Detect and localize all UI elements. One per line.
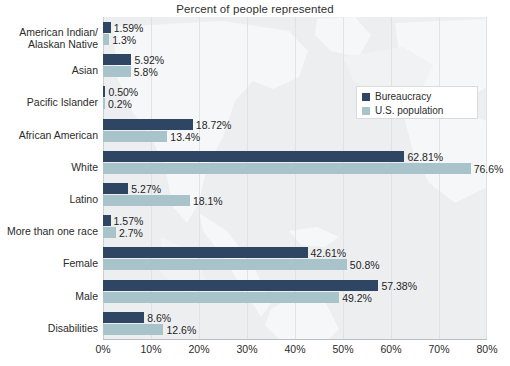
category-label: American Indian/ Alaskan Native bbox=[0, 26, 98, 50]
bar-value-label: 1.57% bbox=[114, 215, 144, 227]
bar-bureaucracy bbox=[103, 86, 105, 97]
bar-value-label: 76.6% bbox=[474, 163, 504, 175]
bar-value-label: 8.6% bbox=[147, 312, 171, 324]
bar-chart: Percent of people represented bbox=[0, 0, 510, 366]
bar-value-label: 57.38% bbox=[381, 280, 417, 292]
x-tick-label: 40% bbox=[275, 343, 315, 355]
bar-value-label: 18.1% bbox=[193, 195, 223, 207]
x-tick-label: 20% bbox=[179, 343, 219, 355]
x-tick-label: 50% bbox=[323, 343, 363, 355]
chart-legend: Bureaucracy U.S. population bbox=[356, 86, 478, 119]
plot-area: 1.59%1.3%5.92%5.8%0.50%0.2%18.72%13.4%62… bbox=[103, 17, 487, 339]
bar-value-label: 2.7% bbox=[119, 227, 143, 239]
category-label: White bbox=[0, 161, 98, 173]
bar-value-label: 5.92% bbox=[134, 54, 164, 66]
x-tick-label: 60% bbox=[371, 343, 411, 355]
bar-value-label: 5.27% bbox=[131, 183, 161, 195]
bar-value-label: 18.72% bbox=[196, 119, 232, 131]
legend-swatch-icon-bureaucracy bbox=[362, 93, 370, 101]
bar-bureaucracy bbox=[103, 119, 193, 130]
bar-us-population bbox=[103, 34, 109, 45]
bar-bureaucracy bbox=[103, 54, 131, 65]
category-label: Disabilities bbox=[0, 322, 98, 334]
chart-title: Percent of people represented bbox=[0, 3, 510, 15]
bar-value-label: 0.50% bbox=[108, 86, 138, 98]
x-tick-label: 30% bbox=[227, 343, 267, 355]
bar-value-label: 62.81% bbox=[407, 151, 443, 163]
x-axis-line bbox=[103, 339, 487, 340]
bar-value-label: 42.61% bbox=[311, 247, 347, 259]
category-label: Male bbox=[0, 290, 98, 302]
bar-value-label: 1.3% bbox=[112, 34, 136, 46]
bar-bureaucracy bbox=[103, 280, 378, 291]
x-tick-label: 70% bbox=[419, 343, 459, 355]
x-tick-label: 80% bbox=[467, 343, 507, 355]
x-tick-label: 10% bbox=[131, 343, 171, 355]
bar-value-label: 5.8% bbox=[134, 66, 158, 78]
x-tick-label: 0% bbox=[83, 343, 123, 355]
category-label: African American bbox=[0, 129, 98, 141]
bar-value-label: 49.2% bbox=[342, 292, 372, 304]
bar-bureaucracy bbox=[103, 312, 144, 323]
legend-label-us-population: U.S. population bbox=[375, 105, 443, 116]
category-label: Pacific Islander bbox=[0, 96, 98, 108]
bar-us-population bbox=[103, 324, 163, 335]
category-label: More than one race bbox=[0, 225, 98, 237]
bar-value-label: 12.6% bbox=[166, 324, 196, 336]
bar-value-label: 13.4% bbox=[170, 131, 200, 143]
bar-bureaucracy bbox=[103, 151, 404, 162]
bar-us-population bbox=[103, 131, 167, 142]
bar-us-population bbox=[103, 163, 471, 174]
bar-bureaucracy bbox=[103, 22, 111, 33]
bar-us-population bbox=[103, 98, 105, 109]
bar-bureaucracy bbox=[103, 247, 308, 258]
category-label: Latino bbox=[0, 193, 98, 205]
bar-value-label: 0.2% bbox=[108, 98, 132, 110]
bar-bureaucracy bbox=[103, 183, 128, 194]
bar-us-population bbox=[103, 259, 347, 270]
bar-bureaucracy bbox=[103, 215, 111, 226]
gridline-70 bbox=[439, 17, 440, 339]
category-label: Asian bbox=[0, 64, 98, 76]
bar-us-population bbox=[103, 292, 339, 303]
legend-item-us-population: U.S. population bbox=[362, 104, 473, 117]
bar-value-label: 50.8% bbox=[350, 259, 380, 271]
bar-us-population bbox=[103, 227, 116, 238]
legend-item-bureaucracy: Bureaucracy bbox=[362, 90, 473, 103]
category-label: Female bbox=[0, 257, 98, 269]
bar-us-population bbox=[103, 195, 190, 206]
legend-swatch-icon-us-population bbox=[362, 107, 370, 115]
bar-value-label: 1.59% bbox=[114, 22, 144, 34]
bar-us-population bbox=[103, 66, 131, 77]
gridline-80 bbox=[486, 17, 487, 339]
legend-label-bureaucracy: Bureaucracy bbox=[375, 91, 431, 102]
